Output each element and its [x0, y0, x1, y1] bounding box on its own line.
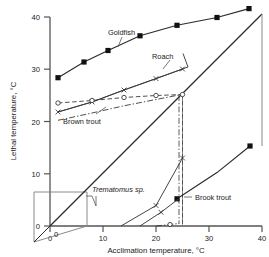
- y-tick-label-10: 10: [32, 170, 40, 179]
- x-tick-label-0: 0: [48, 234, 52, 243]
- y-axis-title: Lethal temperature, °C: [9, 81, 18, 160]
- data-point: [168, 222, 172, 226]
- data-point: [90, 98, 94, 102]
- label-brook-trout: Brook trout: [195, 193, 231, 202]
- data-point: [81, 59, 86, 64]
- y-tick-label-40: 40: [32, 13, 40, 22]
- label-brown-trout: Brown trout: [63, 117, 101, 126]
- data-point: [137, 33, 142, 38]
- x-tick-label-30: 30: [205, 234, 213, 243]
- label-roach: Roach: [152, 52, 173, 61]
- data-point: [55, 75, 60, 80]
- label-goldfish: Goldfish: [108, 28, 135, 37]
- data-point: [246, 6, 251, 11]
- x-tick-label-10: 10: [99, 234, 107, 243]
- chart-svg: 40 30 20 10 0 0 10 20 30 40 Acclimation …: [0, 0, 269, 257]
- origin-label-secondary: 0: [54, 230, 58, 239]
- data-point: [105, 48, 110, 53]
- brook-trout-lower-markers: [168, 222, 172, 226]
- y-tick-label-0: 0: [36, 222, 40, 231]
- thermal-tolerance-chart: 40 30 20 10 0 0 10 20 30 40 Acclimation …: [0, 0, 269, 257]
- x-axis-title: Acclimation temperature, °C: [107, 246, 205, 255]
- data-point: [174, 23, 179, 28]
- data-point: [154, 93, 158, 97]
- x-tick-label-20: 20: [152, 234, 160, 243]
- data-point: [122, 95, 126, 99]
- data-point: [247, 143, 252, 148]
- data-point: [180, 92, 184, 96]
- x-tick-label-40: 40: [258, 234, 266, 243]
- y-tick-label-30: 30: [32, 65, 40, 74]
- data-point: [56, 101, 60, 105]
- y-tick-label-20: 20: [32, 118, 40, 127]
- data-point: [214, 15, 219, 20]
- label-trematomus: Trematomus sp.: [92, 185, 145, 194]
